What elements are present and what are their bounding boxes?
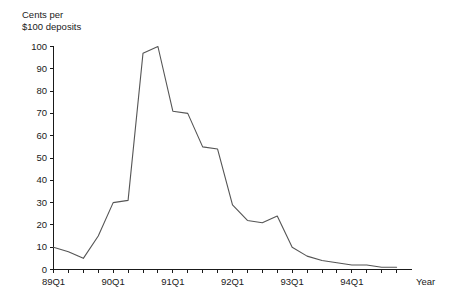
data-series-line <box>54 47 397 268</box>
axes <box>54 47 412 270</box>
line-chart: Cents per $100 deposits Year 01020304050… <box>0 0 456 300</box>
tick-marks <box>50 47 397 274</box>
plot-area <box>0 0 456 300</box>
